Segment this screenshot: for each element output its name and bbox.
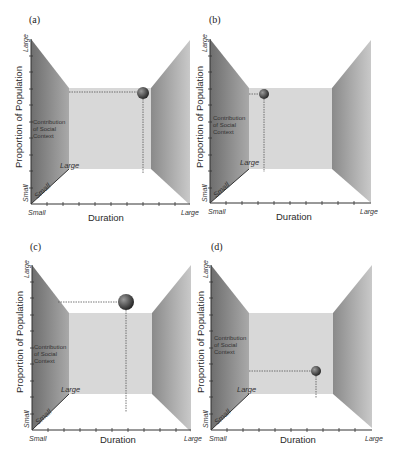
y-axis-large-label: Large (23, 260, 31, 278)
left-wall (210, 39, 249, 203)
y-axis-title: Proportion of Population (194, 66, 205, 168)
y-axis-small-label: Small (23, 410, 30, 428)
back-wall (249, 88, 332, 169)
depth-large-label: Large (237, 385, 256, 394)
data-ball (311, 366, 321, 376)
x-axis-small-label: Small (28, 209, 46, 216)
context-label-line3: Context (214, 349, 235, 355)
context-label-line3: Context (213, 129, 234, 135)
y-axis-small-label: Small (22, 184, 29, 202)
y-axis-large-label: Large (202, 260, 210, 278)
panel-d: (d) Proportion of Population Large Small… (195, 241, 383, 445)
panel-label: (a) (29, 14, 40, 26)
back-wall (249, 313, 333, 394)
x-axis-title: Duration (276, 211, 312, 222)
x-axis-small-label: Small (29, 435, 47, 442)
depth-large-label: Large (240, 158, 259, 167)
y-axis-large-label: Large (22, 34, 30, 52)
panel-b: (b) Proportion of Population Large Small… (194, 14, 378, 222)
y-axis-small-label: Small (201, 184, 208, 202)
y-axis-title: Proportion of Population (14, 291, 25, 393)
figure-panels: (a) Proportion of Population Large Small… (0, 0, 398, 458)
panel-a: (a) Proportion of Population Large Small… (13, 14, 199, 223)
x-axis-large-label: Large (184, 435, 202, 443)
x-axis-title: Duration (88, 212, 124, 223)
data-ball (259, 89, 269, 99)
context-label-line1: Contribution (213, 115, 245, 121)
panel-label: (d) (211, 241, 223, 253)
context-label-line1: Contribution (33, 119, 65, 125)
y-axis-title: Proportion of Population (13, 66, 24, 168)
x-axis-title: Duration (280, 434, 316, 445)
panel-label: (c) (30, 241, 41, 253)
context-label-line2: of Social (33, 126, 56, 132)
y-axis-small-label: Small (202, 410, 209, 428)
x-axis-large-label: Large (365, 435, 383, 443)
context-label-line3: Context (34, 358, 55, 364)
back-wall (69, 313, 152, 394)
data-ball (118, 294, 134, 310)
panel-c: (c) Proportion of Population Large Small… (14, 241, 202, 445)
x-axis-large-label: Large (360, 208, 378, 216)
y-axis-large-label: Large (201, 34, 209, 52)
x-axis-small-label: Small (208, 208, 226, 215)
depth-large-label: Large (61, 385, 80, 394)
context-label-line1: Contribution (214, 335, 246, 341)
data-ball (137, 87, 149, 99)
y-axis-title: Proportion of Population (195, 291, 206, 393)
context-label-line3: Context (33, 133, 54, 139)
right-wall (333, 265, 372, 428)
right-wall (152, 265, 191, 432)
context-label-line2: of Social (34, 351, 57, 357)
context-label-line2: of Social (214, 342, 237, 348)
depth-large-label: Large (60, 161, 79, 170)
right-wall (151, 40, 190, 205)
x-axis-large-label: Large (181, 209, 199, 217)
panel-label: (b) (209, 14, 221, 26)
back-wall (69, 88, 151, 169)
context-label-line2: of Social (213, 122, 236, 128)
right-wall (332, 40, 371, 203)
x-axis-title: Duration (100, 434, 136, 445)
context-label-line1: Contribution (34, 344, 66, 350)
x-axis-small-label: Small (209, 435, 227, 442)
